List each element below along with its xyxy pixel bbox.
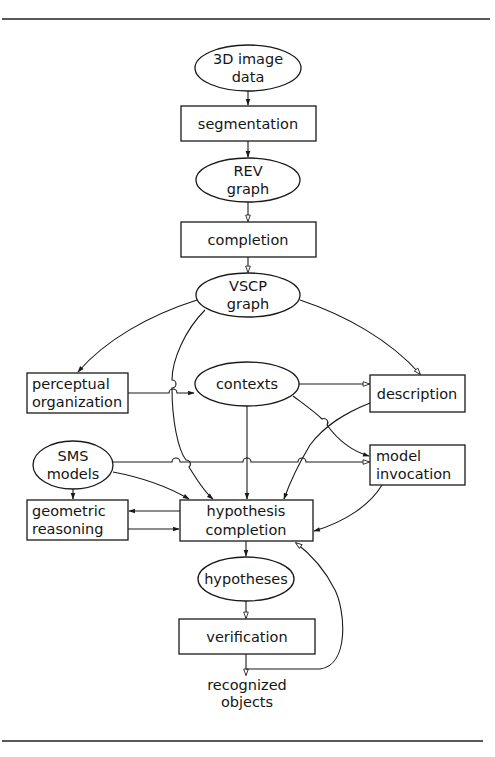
node-label: SMS <box>58 448 89 464</box>
node-perceptual-organization: perceptual organization <box>27 373 128 413</box>
node-vscp-graph: VSCP graph <box>196 273 300 317</box>
node-label: segmentation <box>198 116 298 132</box>
node-label: VSCP <box>229 278 267 294</box>
node-label: invocation <box>376 466 451 482</box>
node-label: description <box>377 386 458 402</box>
edge-sms-to-hypcompletion <box>113 472 189 499</box>
node-rev-graph: REV graph <box>196 158 300 202</box>
node-contexts: contexts <box>195 362 299 406</box>
edge-contexts-to-modelinv <box>293 396 369 456</box>
edge-sms-to-modelinv <box>113 458 369 462</box>
node-label: data <box>232 69 265 85</box>
edge-vscp-to-description <box>300 300 420 374</box>
node-label: hypothesis <box>207 503 286 519</box>
node-label: verification <box>206 629 287 645</box>
node-label: objects <box>221 694 273 710</box>
node-label: perceptual <box>32 376 110 392</box>
node-label: completion <box>206 522 287 538</box>
node-sms-models: SMS models <box>33 441 113 489</box>
node-label: contexts <box>216 376 278 392</box>
node-description: description <box>370 375 465 412</box>
node-label: graph <box>227 181 269 197</box>
edge-vscp-to-hypcompletion <box>172 310 213 499</box>
node-label: REV <box>233 163 262 179</box>
edge-vscp-to-perceptual <box>78 300 197 372</box>
node-recognized-objects: recognized objects <box>207 677 287 710</box>
node-label: recognized <box>207 677 287 693</box>
node-completion: completion <box>181 222 316 257</box>
node-label: hypotheses <box>204 571 288 587</box>
node-label: graph <box>227 296 269 312</box>
node-label: completion <box>208 232 289 248</box>
node-segmentation: segmentation <box>181 106 316 141</box>
node-model-invocation: model invocation <box>370 445 465 485</box>
node-label: 3D image <box>213 51 283 67</box>
node-label: organization <box>32 394 122 410</box>
node-label: reasoning <box>32 521 104 537</box>
node-hypotheses: hypotheses <box>198 557 294 601</box>
flowchart-diagram: 3D image data segmentation REV graph com… <box>0 0 495 757</box>
node-hypothesis-completion: hypothesis completion <box>180 500 313 541</box>
node-label: model <box>376 448 421 464</box>
node-geometric-reasoning: geometric reasoning <box>27 500 128 540</box>
edge-modelinv-to-hypcompletion <box>314 485 382 531</box>
node-label: models <box>47 466 100 482</box>
node-3d-image-data: 3D image data <box>195 45 301 91</box>
edge-perceptual-to-contexts <box>128 389 194 393</box>
node-verification: verification <box>179 619 315 654</box>
node-label: geometric <box>32 503 106 519</box>
